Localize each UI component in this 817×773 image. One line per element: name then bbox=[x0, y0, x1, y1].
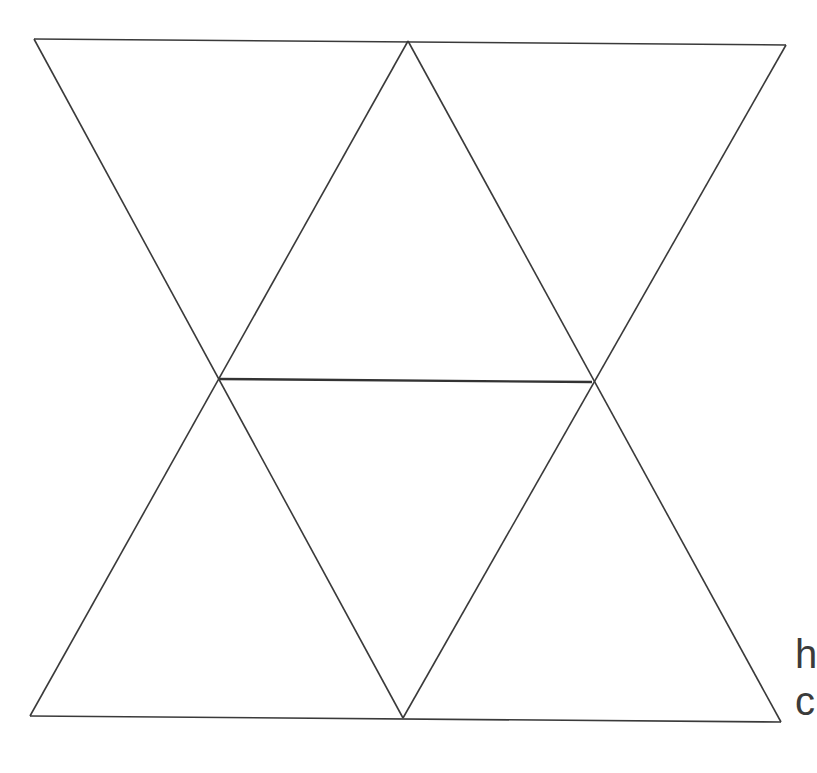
edge-bottom bbox=[30, 716, 781, 722]
lattice-edge-group bbox=[30, 39, 786, 722]
edge-b-to-f bbox=[30, 41, 408, 716]
edge-middle-horizontal bbox=[218, 379, 592, 382]
